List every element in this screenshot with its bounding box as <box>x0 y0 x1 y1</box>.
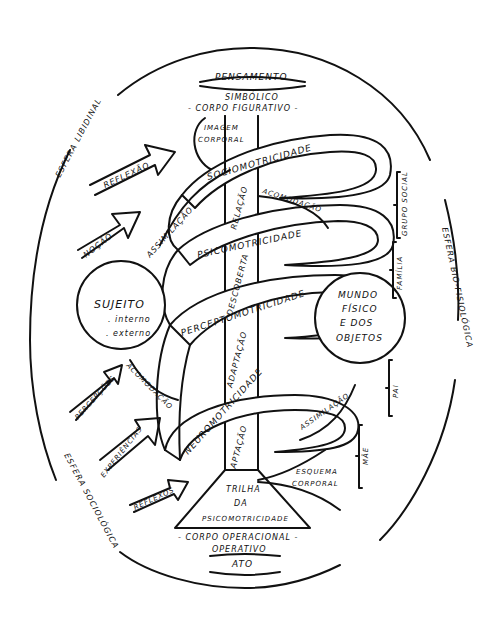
experiencias-label: EXPERIÊNCIAS <box>98 424 144 479</box>
ato-arc-lower <box>210 572 280 575</box>
psychomotricity-diagram: ESFERA LIBIDINAL ESFERA BIO-FISIOLÓGICA … <box>0 0 480 623</box>
simbolico-label: SIMBÓLICO <box>225 91 279 102</box>
ato-label: ATO <box>231 559 253 569</box>
trilha-line3: PSICOMOTRICIDADE <box>202 515 289 523</box>
acomodacao-bottom-label: ACOMODAÇÃO <box>124 360 175 411</box>
mundo-line4: OBJETOS <box>336 333 383 343</box>
grupo-social-label: GRUPO SOCIAL <box>401 171 409 236</box>
esfera-bio-fisiologica-label: ESFERA BIO-FISIOLÓGICA <box>440 226 476 349</box>
familia-label: FAMÍLIA <box>395 256 404 290</box>
percepcoes-label: PERCEPÇÕES <box>73 373 117 421</box>
top-arc-lower <box>200 86 305 90</box>
arrow-reflexao: REFLEXÃO <box>90 145 175 195</box>
esquema-line1: ESQUEMA <box>296 468 338 476</box>
bracket-mae: MÃE <box>356 425 370 488</box>
mundo-line1: MUNDO <box>338 290 378 300</box>
bracket-pai: PAI <box>386 360 400 416</box>
sujeito-externo: . externo <box>106 329 151 338</box>
sujeito-title: SUJEITO <box>94 298 145 311</box>
pai-label: PAI <box>392 384 400 398</box>
trilha-line1: TRILHA <box>226 485 261 494</box>
imagem-corporal-line1: IMAGEM <box>204 124 239 132</box>
arrow-nocao: NOÇÃO <box>78 212 140 260</box>
mae-label: MÃE <box>361 447 370 465</box>
sujeito-interno: . interno <box>108 315 151 324</box>
trilha-line2: DA <box>234 499 248 508</box>
bracket-familia: FAMÍLIA <box>390 242 404 298</box>
imagem-corporal-line2: CORPORAL <box>198 136 245 144</box>
mundo-line3: E DOS <box>340 318 373 328</box>
bracket-grupo-social: GRUPO SOCIAL <box>394 171 409 238</box>
arrow-percepcoes: PERCEPÇÕES <box>70 365 122 421</box>
arrow-reflexos: REFLEXOS <box>130 480 188 512</box>
pensamento-label: PENSAMENTO <box>215 72 287 82</box>
esfera-libidinal-label: ESFERA LIBIDINAL <box>54 97 103 179</box>
mundo-line2: FÍSICO <box>342 303 378 314</box>
operativo-label: OPERATIVO <box>212 545 267 554</box>
ato-arc-upper <box>210 554 280 556</box>
arrow-experiencias: EXPERIÊNCIAS <box>98 418 160 479</box>
esquema-line2: CORPORAL <box>292 480 339 488</box>
corpo-figurativo-label: - CORPO FIGURATIVO - <box>188 104 298 113</box>
reflexos-label: REFLEXOS <box>132 486 175 512</box>
corpo-operacional-label: - CORPO OPERACIONAL - <box>178 533 298 542</box>
